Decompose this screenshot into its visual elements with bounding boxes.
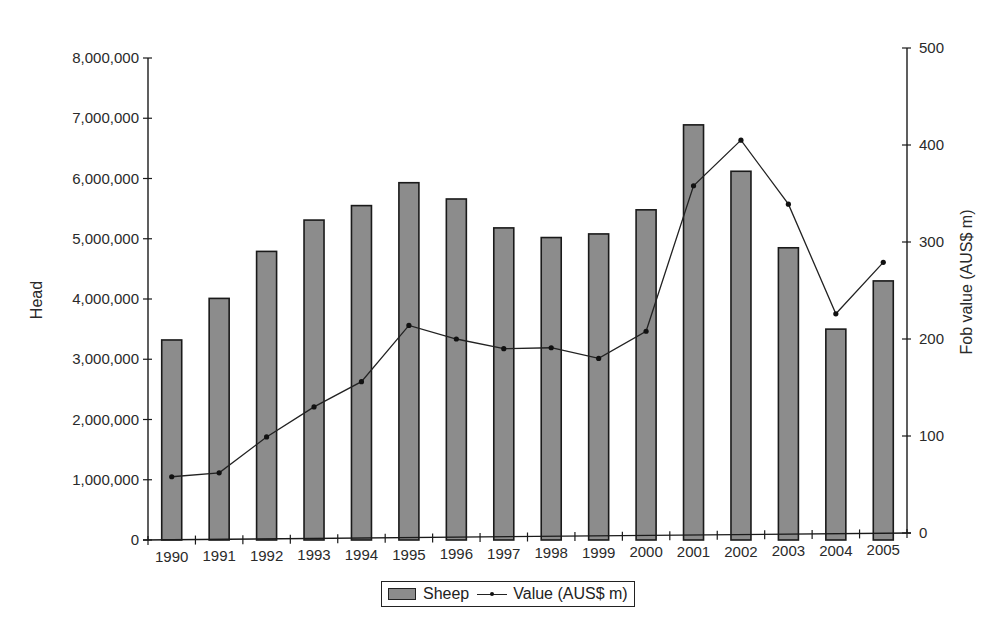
- y-axis-title: Head: [28, 281, 45, 319]
- svg-text:2001: 2001: [677, 543, 710, 560]
- value-point-1995: [406, 323, 411, 328]
- svg-text:1990: 1990: [155, 548, 188, 565]
- svg-text:5,000,000: 5,000,000: [72, 230, 139, 247]
- svg-text:400: 400: [919, 136, 944, 153]
- value-point-1993: [311, 404, 316, 409]
- value-point-2005: [881, 260, 886, 265]
- svg-text:1992: 1992: [250, 547, 283, 564]
- bar-1990: [162, 340, 182, 540]
- bar-2003: [778, 248, 798, 540]
- value-point-2002: [738, 138, 743, 143]
- sheep-bar-swatch-icon: [388, 588, 416, 600]
- bar-2005: [873, 281, 893, 540]
- y2-axis-title: Fob value (AUS$ m): [958, 210, 975, 355]
- value-point-1999: [596, 356, 601, 361]
- bar-1998: [541, 238, 561, 540]
- svg-text:1993: 1993: [297, 546, 330, 563]
- value-point-2003: [786, 202, 791, 207]
- svg-text:1,000,000: 1,000,000: [72, 471, 139, 488]
- bar-2002: [731, 171, 751, 540]
- svg-text:6,000,000: 6,000,000: [72, 170, 139, 187]
- value-point-2004: [833, 311, 838, 316]
- svg-text:0: 0: [919, 524, 927, 541]
- svg-text:1994: 1994: [345, 546, 378, 563]
- bar-1993: [304, 220, 324, 540]
- svg-text:300: 300: [919, 233, 944, 250]
- legend-label-sheep: Sheep: [423, 585, 469, 603]
- svg-text:1991: 1991: [202, 547, 235, 564]
- svg-text:200: 200: [919, 330, 944, 347]
- svg-text:1998: 1998: [535, 544, 568, 561]
- value-point-1998: [549, 345, 554, 350]
- bar-1999: [589, 234, 609, 540]
- svg-text:4,000,000: 4,000,000: [72, 290, 139, 307]
- bar-2004: [826, 329, 846, 540]
- svg-text:2005: 2005: [867, 541, 900, 558]
- bar-2000: [636, 210, 656, 540]
- svg-text:2000: 2000: [629, 543, 662, 560]
- value-point-1994: [359, 379, 364, 384]
- svg-text:500: 500: [919, 39, 944, 56]
- svg-text:1997: 1997: [487, 545, 520, 562]
- svg-text:3,000,000: 3,000,000: [72, 350, 139, 367]
- value-point-1997: [501, 346, 506, 351]
- svg-text:2002: 2002: [724, 543, 757, 560]
- svg-text:0: 0: [131, 531, 139, 548]
- bar-1995: [399, 183, 419, 540]
- value-line-marker-icon: [477, 589, 507, 599]
- value-point-1990: [169, 474, 174, 479]
- bar-1996: [446, 199, 466, 540]
- value-point-1992: [264, 434, 269, 439]
- bar-1991: [209, 298, 229, 540]
- chart-legend: Sheep Value (AUS$ m): [381, 581, 635, 607]
- svg-text:1995: 1995: [392, 546, 425, 563]
- svg-text:1996: 1996: [440, 545, 473, 562]
- svg-text:1999: 1999: [582, 544, 615, 561]
- svg-text:2004: 2004: [819, 542, 852, 559]
- bar-1992: [257, 251, 277, 540]
- value-point-1996: [454, 336, 459, 341]
- svg-text:7,000,000: 7,000,000: [72, 109, 139, 126]
- value-point-2001: [691, 183, 696, 188]
- svg-text:8,000,000: 8,000,000: [72, 49, 139, 66]
- svg-text:2,000,000: 2,000,000: [72, 411, 139, 428]
- svg-text:2003: 2003: [772, 542, 805, 559]
- value-point-1991: [217, 470, 222, 475]
- svg-text:100: 100: [919, 427, 944, 444]
- bar-1997: [494, 228, 514, 540]
- chart-canvas: 01,000,0002,000,0003,000,0004,000,0005,0…: [0, 0, 998, 635]
- legend-label-value: Value (AUS$ m): [513, 585, 627, 603]
- value-point-2000: [643, 329, 648, 334]
